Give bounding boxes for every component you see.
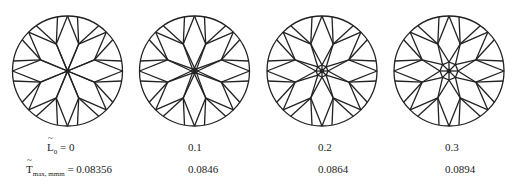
star-panel-1 bbox=[13, 16, 123, 126]
star-panel-3 bbox=[267, 16, 377, 126]
label-Tmax-first: Tmax, mmm = 0.08356 bbox=[26, 163, 112, 178]
label-L0-3: 0.2 bbox=[318, 141, 332, 153]
star-pattern-figure bbox=[0, 0, 515, 135]
star-panel-2 bbox=[140, 16, 250, 126]
star-panel-4 bbox=[394, 16, 504, 126]
label-L0-2: 0.1 bbox=[188, 141, 202, 153]
label-Tmax-4: 0.0894 bbox=[445, 163, 475, 175]
label-Tmax-3: 0.0864 bbox=[318, 163, 348, 175]
label-L0-4: 0.3 bbox=[445, 141, 459, 153]
label-Tmax-2: 0.0846 bbox=[188, 163, 218, 175]
label-L0-first: L0 = 0 bbox=[47, 141, 74, 156]
